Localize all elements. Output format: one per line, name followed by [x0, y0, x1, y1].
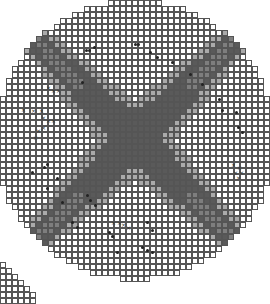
- dot-marker-icon: [46, 163, 49, 166]
- grid-cell[interactable]: [30, 298, 36, 304]
- dot-marker-icon: [141, 246, 144, 249]
- x-marker-icon: ×: [21, 107, 26, 113]
- grid-cell[interactable]: [258, 198, 264, 204]
- x-marker-icon: ×: [231, 162, 236, 168]
- x-marker-icon: ×: [33, 135, 38, 141]
- dot-marker-icon: [94, 204, 97, 207]
- dot-marker-icon: [151, 229, 154, 232]
- grid-cell[interactable]: [210, 252, 216, 258]
- x-marker-icon: ×: [56, 88, 61, 94]
- grid-cell[interactable]: [264, 180, 270, 186]
- x-marker-icon: ×: [51, 118, 56, 124]
- dot-marker-icon: [111, 235, 114, 238]
- dot-marker-icon: [146, 221, 149, 224]
- x-marker-icon: ×: [236, 175, 241, 181]
- dot-marker-icon: [137, 43, 140, 46]
- dot-marker-icon: [88, 49, 91, 52]
- dot-marker-icon: [149, 51, 152, 54]
- dot-marker-icon: [237, 126, 240, 129]
- dot-marker-icon: [218, 98, 221, 101]
- grid-cell[interactable]: [174, 270, 180, 276]
- x-marker-icon: ×: [126, 225, 131, 231]
- dot-marker-icon: [71, 221, 74, 224]
- grid-cell[interactable]: [198, 258, 204, 264]
- grid-cell[interactable]: [252, 204, 258, 210]
- grid-cell[interactable]: [186, 264, 192, 270]
- dot-marker-icon: [235, 111, 238, 114]
- grid-cell[interactable]: [240, 222, 246, 228]
- dot-marker-icon: [31, 171, 34, 174]
- grid-cell[interactable]: [222, 240, 228, 246]
- dot-marker-icon: [151, 251, 154, 254]
- grid-cell[interactable]: [216, 246, 222, 252]
- dot-marker-icon: [81, 81, 84, 84]
- dot-marker-icon: [43, 166, 46, 169]
- dot-marker-icon: [146, 249, 149, 252]
- grid-cell[interactable]: [246, 216, 252, 222]
- dot-marker-icon: [221, 109, 224, 112]
- dot-marker-icon: [171, 61, 174, 64]
- grid-cell[interactable]: [234, 228, 240, 234]
- grid-cell[interactable]: [228, 234, 234, 240]
- dot-marker-icon: [241, 131, 244, 134]
- dot-marker-icon: [86, 194, 89, 197]
- x-marker-icon: ×: [111, 220, 116, 226]
- dot-marker-icon: [93, 46, 96, 49]
- dot-marker-icon: [108, 231, 111, 234]
- dot-marker-icon: [56, 177, 59, 180]
- x-marker-icon: ×: [31, 108, 36, 114]
- dot-marker-icon: [76, 226, 79, 229]
- dot-marker-icon: [156, 56, 159, 59]
- x-marker-icon: ×: [41, 125, 46, 131]
- dot-marker-icon: [61, 201, 64, 204]
- dot-marker-icon: [116, 251, 119, 254]
- dot-marker-icon: [89, 199, 92, 202]
- dot-marker-icon: [189, 73, 192, 76]
- dot-marker-icon: [46, 187, 49, 190]
- dot-marker-icon: [201, 83, 204, 86]
- grid-cell[interactable]: [144, 276, 150, 282]
